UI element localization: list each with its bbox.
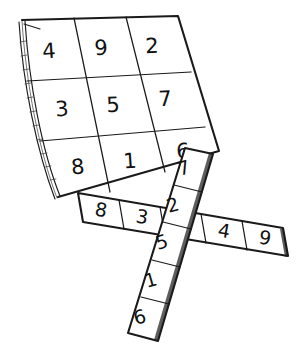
sheet-cell-r1c1: 4 [41, 39, 56, 64]
sheet-cell-r1c3: 2 [145, 34, 159, 58]
illustration-canvas: 4 9 2 3 5 7 8 1 6 8 3 5 4 [0, 0, 298, 358]
vertical-strip: 7 2 5 1 6 [128, 148, 213, 341]
sheet-cell-r1c2: 9 [94, 36, 109, 61]
sheet-cell-r2c1: 3 [54, 97, 69, 122]
sheet-cell-r2c2: 5 [106, 93, 121, 118]
sheet-cell-r3c1: 8 [70, 154, 85, 179]
sheet-cell-r3c2: 1 [122, 149, 137, 174]
sheet-cell-r2c3: 7 [158, 87, 173, 112]
